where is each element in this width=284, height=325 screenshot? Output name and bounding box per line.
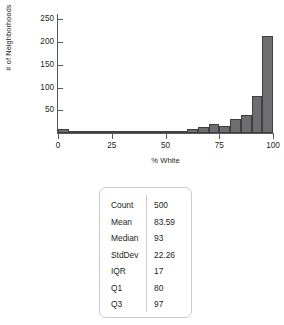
x-axis-tick-label: 25 bbox=[97, 142, 127, 150]
x-axis-tick-label: 75 bbox=[204, 142, 234, 150]
histogram-bar bbox=[187, 129, 198, 133]
table-row: Count500 bbox=[100, 197, 193, 213]
stat-value: 83.59 bbox=[154, 214, 175, 230]
table-row: Mean83.59 bbox=[100, 214, 193, 230]
histogram-bar bbox=[176, 131, 187, 133]
stat-label: IQR bbox=[111, 263, 126, 279]
stat-value: 500 bbox=[154, 197, 168, 213]
stat-label: Q3 bbox=[111, 296, 122, 312]
histogram-bar bbox=[112, 131, 123, 133]
stat-label: Median bbox=[111, 230, 138, 246]
table-row: Q397 bbox=[100, 296, 193, 312]
histogram-bar bbox=[155, 131, 166, 133]
stat-value: 22.26 bbox=[154, 247, 175, 263]
x-axis-tick-mark bbox=[166, 134, 167, 139]
table-row: Median93 bbox=[100, 230, 193, 246]
histogram-bar bbox=[166, 131, 177, 133]
table-row: IQR17 bbox=[100, 263, 193, 279]
y-axis-tick-labels: 50100150200250 bbox=[16, 0, 54, 180]
histogram-bar bbox=[69, 131, 80, 133]
y-axis-tick-label: 250 bbox=[28, 15, 54, 23]
x-axis-title: % White bbox=[58, 156, 273, 165]
table-row: StdDev22.26 bbox=[100, 247, 193, 263]
x-axis-tick-mark bbox=[112, 134, 113, 139]
histogram-bar bbox=[58, 129, 69, 133]
histogram-bar bbox=[90, 131, 101, 133]
histogram-figure: # of Neighborhoods 50100150200250 025507… bbox=[0, 0, 284, 325]
y-axis-title: # of Neighborhoods bbox=[4, 0, 13, 90]
y-axis-tick-label: 150 bbox=[28, 61, 54, 69]
histogram-bar bbox=[144, 131, 155, 133]
histogram-bar bbox=[219, 126, 230, 133]
x-axis-tick-label: 100 bbox=[258, 142, 284, 150]
stat-label: Count bbox=[111, 197, 133, 213]
histogram-bar bbox=[262, 36, 273, 133]
histogram-bar bbox=[133, 131, 144, 133]
histogram-bar bbox=[252, 96, 263, 133]
histogram-bar bbox=[209, 124, 220, 133]
y-axis-tick-label: 50 bbox=[28, 106, 54, 114]
table-row: Q180 bbox=[100, 280, 193, 296]
summary-statistics-table: Count500Mean83.59Median93StdDev22.26IQR1… bbox=[99, 187, 192, 318]
histogram-bar bbox=[123, 131, 134, 133]
stat-value: 97 bbox=[154, 296, 163, 312]
stat-value: 80 bbox=[154, 280, 163, 296]
histogram-chart: # of Neighborhoods 50100150200250 025507… bbox=[0, 0, 284, 180]
x-axis-tick-label: 50 bbox=[151, 142, 181, 150]
stat-label: StdDev bbox=[111, 247, 138, 263]
x-axis-tick-label: 0 bbox=[43, 142, 73, 150]
x-axis-tick-mark bbox=[219, 134, 220, 139]
stat-value: 17 bbox=[154, 263, 163, 279]
histogram-bar bbox=[101, 131, 112, 133]
stat-label: Q1 bbox=[111, 280, 122, 296]
y-axis-tick-label: 200 bbox=[28, 38, 54, 46]
stat-label: Mean bbox=[111, 214, 132, 230]
y-axis-tick-label: 100 bbox=[28, 84, 54, 92]
x-axis-tick-mark bbox=[273, 134, 274, 139]
histogram-bar bbox=[80, 131, 91, 133]
x-axis-tick-mark bbox=[58, 134, 59, 139]
histogram-bar bbox=[198, 127, 209, 133]
histogram-bar bbox=[230, 119, 241, 133]
histogram-bar bbox=[241, 115, 252, 133]
plot-area bbox=[58, 14, 273, 133]
stat-value: 93 bbox=[154, 230, 163, 246]
